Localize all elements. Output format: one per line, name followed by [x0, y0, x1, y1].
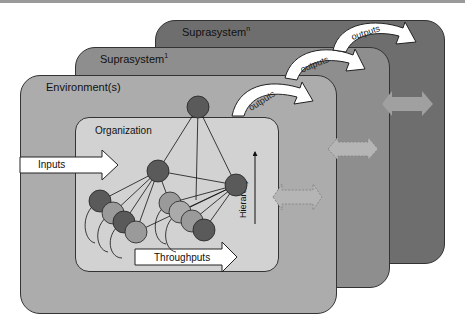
node-mid-left	[147, 160, 169, 182]
node-mid-right	[225, 174, 247, 196]
inputs-label: Inputs	[38, 159, 65, 170]
diagram-graphics: outputs outputs outputs Inputs Throughpu…	[0, 0, 465, 328]
node-top	[187, 96, 209, 118]
throughputs-label: Throughputs	[154, 252, 210, 263]
environment-exchange-arrow	[273, 184, 322, 210]
inputs-arrow	[20, 150, 118, 180]
suprasystem-1-exchange-arrow	[328, 137, 378, 160]
suprasystem-n-exchange-arrow	[382, 91, 433, 116]
